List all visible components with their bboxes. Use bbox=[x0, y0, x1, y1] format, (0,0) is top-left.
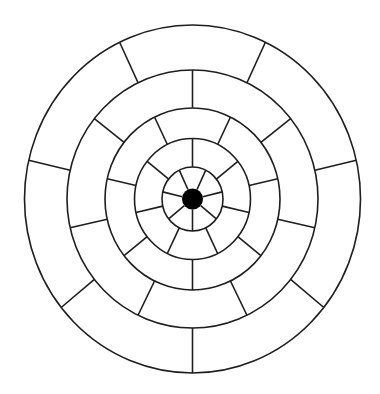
spoke-band-4-4 bbox=[230, 281, 246, 315]
spoke-band-1-5 bbox=[197, 170, 206, 189]
spoke-band-1-7 bbox=[201, 206, 217, 219]
spoke-band-3-3 bbox=[107, 179, 136, 186]
spoke-band-3-6 bbox=[249, 179, 278, 186]
spoke-band-3-5 bbox=[218, 117, 231, 144]
spoke-band-3-7 bbox=[238, 237, 261, 256]
spoke-band-1-6 bbox=[203, 192, 222, 197]
wheel-svg bbox=[0, 0, 380, 394]
spoke-band-2-4 bbox=[206, 228, 218, 254]
center-dot bbox=[182, 189, 203, 210]
spoke-band-3-2 bbox=[124, 237, 147, 256]
concentric-wheel-diagram bbox=[0, 0, 380, 394]
spoke-band-4-7 bbox=[94, 119, 124, 143]
spoke-band-4-3 bbox=[278, 219, 315, 227]
spoke-band-4-2 bbox=[261, 119, 291, 143]
spoke-band-1-3 bbox=[163, 192, 182, 197]
spoke-band-3-4 bbox=[155, 117, 168, 144]
spoke-band-1-4 bbox=[179, 170, 188, 189]
spoke-band-5-7 bbox=[291, 279, 324, 307]
spoke-band-5-5 bbox=[247, 42, 265, 83]
spoke-band-4-5 bbox=[138, 281, 154, 315]
spoke-band-5-4 bbox=[120, 42, 138, 83]
spoke-band-1-2 bbox=[169, 206, 185, 219]
spoke-band-2-7 bbox=[147, 161, 169, 179]
spoke-band-2-3 bbox=[222, 206, 249, 212]
spoke-band-5-3 bbox=[29, 160, 70, 170]
spoke-band-2-6 bbox=[136, 206, 163, 212]
spoke-band-2-2 bbox=[216, 161, 238, 179]
spoke-band-5-6 bbox=[315, 160, 356, 170]
spoke-band-5-2 bbox=[61, 279, 94, 307]
spoke-band-4-6 bbox=[70, 219, 107, 227]
spoke-band-2-5 bbox=[167, 228, 179, 254]
